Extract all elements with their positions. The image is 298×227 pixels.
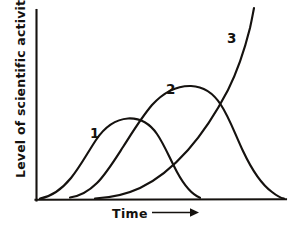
x-axis-spine bbox=[36, 199, 287, 200]
chart-figure: 1 2 3 Time Level of scientific activity bbox=[0, 0, 298, 227]
curve-series-2 bbox=[70, 86, 284, 199]
y-axis-label: Level of scientific activity bbox=[13, 0, 28, 178]
curve-series-1 bbox=[40, 118, 200, 198]
right-arrow-icon bbox=[152, 208, 199, 217]
x-axis-label: Time bbox=[112, 206, 148, 221]
curve-label-1: 1 bbox=[90, 125, 99, 141]
scientific-activity-line-chart: 1 2 3 Time Level of scientific activity bbox=[0, 0, 298, 227]
curve-label-2: 2 bbox=[166, 81, 175, 97]
curve-label-3: 3 bbox=[227, 30, 236, 46]
